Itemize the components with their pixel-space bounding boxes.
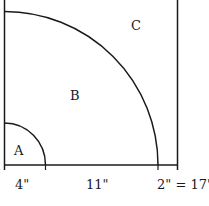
- large-arc: [5, 12, 159, 166]
- region-label-b: B: [70, 88, 80, 103]
- measure-label-4in: 4": [15, 177, 29, 192]
- measure-label-11in: 11": [86, 177, 109, 192]
- small-arc: [5, 123, 46, 165]
- measure-label-total: 2" = 17": [157, 177, 209, 192]
- region-label-a: A: [13, 143, 24, 158]
- quarter-circle-diagram: A B C 4" 11" 2" = 17": [0, 0, 209, 206]
- region-label-c: C: [131, 18, 141, 33]
